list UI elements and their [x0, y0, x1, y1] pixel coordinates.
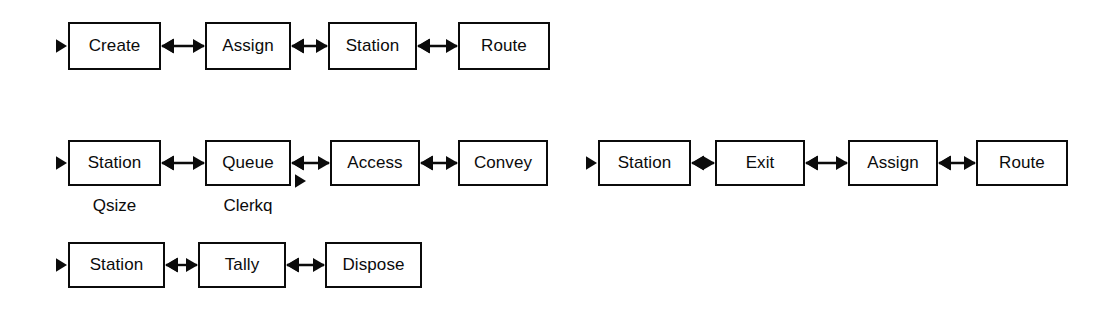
- solid-triangle-right-icon: [56, 156, 67, 170]
- block-label: Route: [999, 154, 1045, 172]
- arrowhead-right-icon: [313, 258, 325, 272]
- arrowhead-left-icon: [161, 39, 173, 53]
- entry-marker-triangle: [50, 256, 68, 274]
- block-label: Queue: [222, 154, 274, 172]
- block-label: Station: [618, 154, 672, 172]
- connector-double-arrow: [291, 35, 328, 57]
- entry-marker-triangle: [50, 154, 68, 172]
- arrowhead-left-icon: [291, 39, 303, 53]
- block-sublabel-qsize: Qsize: [48, 197, 181, 214]
- arrowhead-right-icon: [193, 39, 205, 53]
- block-route[interactable]: Route: [976, 140, 1068, 186]
- arrowhead-left-icon: [805, 156, 817, 170]
- arrowhead-left-icon: [417, 39, 429, 53]
- block-label: Station: [90, 256, 144, 274]
- block-assign[interactable]: Assign: [848, 140, 938, 186]
- connector-double-arrow: [420, 152, 458, 174]
- block-station[interactable]: Station: [68, 140, 161, 186]
- connector-double-arrow: [165, 254, 198, 276]
- block-station[interactable]: Station: [328, 22, 417, 70]
- diagram-canvas: CreateAssignStationRouteStationQsizeQueu…: [0, 0, 1118, 321]
- connector-double-arrow: [286, 254, 325, 276]
- block-label: Access: [347, 154, 402, 172]
- connector-double-arrow: [291, 152, 330, 174]
- arrowhead-left-icon: [420, 156, 432, 170]
- block-label: Assign: [867, 154, 919, 172]
- exit-marker-triangle: [290, 172, 308, 190]
- block-station[interactable]: Station: [68, 242, 165, 288]
- block-label: Dispose: [342, 256, 404, 274]
- arrowhead-left-icon: [292, 156, 304, 171]
- block-label: Convey: [474, 154, 532, 172]
- block-tally[interactable]: Tally: [198, 242, 286, 288]
- arrowhead-left-icon: [421, 156, 433, 171]
- arrowhead-right-icon: [836, 156, 848, 170]
- arrowhead-left-icon: [161, 156, 173, 170]
- block-queue[interactable]: Queue: [205, 140, 291, 186]
- solid-triangle-right-icon: [56, 39, 67, 53]
- arrowhead-left-icon: [692, 156, 704, 171]
- arrowhead-left-icon: [286, 258, 298, 272]
- arrowhead-left-icon: [292, 39, 304, 54]
- arrowhead-right-icon: [964, 156, 976, 170]
- solid-triangle-right-icon: [586, 156, 597, 170]
- arrowhead-left-icon: [691, 156, 703, 170]
- arrowhead-right-icon: [316, 39, 328, 53]
- block-assign[interactable]: Assign: [205, 22, 291, 70]
- arrowhead-left-icon: [938, 156, 950, 170]
- block-label: Create: [89, 37, 141, 55]
- arrowhead-left-icon: [939, 156, 951, 171]
- connector-double-arrow: [938, 152, 976, 174]
- arrowhead-left-icon: [165, 258, 177, 272]
- connector-double-arrow: [805, 152, 848, 174]
- connector-double-arrow: [691, 152, 715, 174]
- arrowhead-left-icon: [418, 39, 430, 54]
- block-exit[interactable]: Exit: [715, 140, 805, 186]
- arrowhead-right-icon: [318, 156, 330, 170]
- arrowhead-right-icon: [193, 156, 205, 170]
- connector-double-arrow: [417, 35, 458, 57]
- entry-marker-triangle: [580, 154, 598, 172]
- arrowhead-left-icon: [166, 258, 178, 273]
- block-label: Assign: [222, 37, 274, 55]
- arrowhead-right-icon: [186, 258, 198, 272]
- block-dispose[interactable]: Dispose: [325, 242, 422, 288]
- arrowhead-right-icon: [446, 39, 458, 53]
- block-label: Station: [88, 154, 142, 172]
- block-convey[interactable]: Convey: [458, 140, 548, 186]
- solid-triangle-right-icon: [295, 174, 306, 188]
- solid-triangle-right-icon: [56, 258, 67, 272]
- arrowhead-left-icon: [291, 156, 303, 170]
- block-label: Tally: [225, 256, 260, 274]
- arrowhead-left-icon: [287, 258, 299, 273]
- block-route[interactable]: Route: [458, 22, 550, 70]
- arrowhead-left-icon: [162, 39, 174, 54]
- arrowhead-right-icon: [703, 156, 715, 170]
- arrowhead-right-icon: [446, 156, 458, 170]
- block-access[interactable]: Access: [330, 140, 420, 186]
- connector-double-arrow: [161, 35, 205, 57]
- block-label: Exit: [746, 154, 775, 172]
- arrowhead-left-icon: [162, 156, 174, 171]
- arrowhead-left-icon: [806, 156, 818, 171]
- block-label: Station: [346, 37, 400, 55]
- block-create[interactable]: Create: [68, 22, 161, 70]
- block-label: Route: [481, 37, 527, 55]
- entry-marker-triangle: [50, 37, 68, 55]
- block-station[interactable]: Station: [598, 140, 691, 186]
- block-sublabel-clerkq: Clerkq: [185, 197, 311, 214]
- connector-double-arrow: [161, 152, 205, 174]
